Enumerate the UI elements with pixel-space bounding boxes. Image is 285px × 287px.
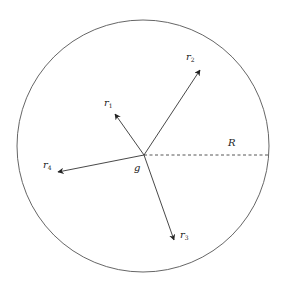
vector-r1-label: r1 [104,97,113,109]
vector-r4-arrow [58,155,144,172]
vector-r3-arrow [144,155,174,240]
vector-r4-label: r4 [43,159,52,171]
origin-label: g [134,162,140,173]
vector-r2-arrow [144,70,200,155]
diagram-svg: R r1r2r3r4 g [0,0,285,287]
vector-r2-label: r2 [186,51,195,63]
vector-r3-label: r3 [180,229,189,241]
radius-label: R [227,137,236,148]
vector-group: r1r2r3r4 [43,51,200,241]
vector-r1-arrow [115,114,144,155]
diagram-canvas: R r1r2r3r4 g [0,0,285,287]
